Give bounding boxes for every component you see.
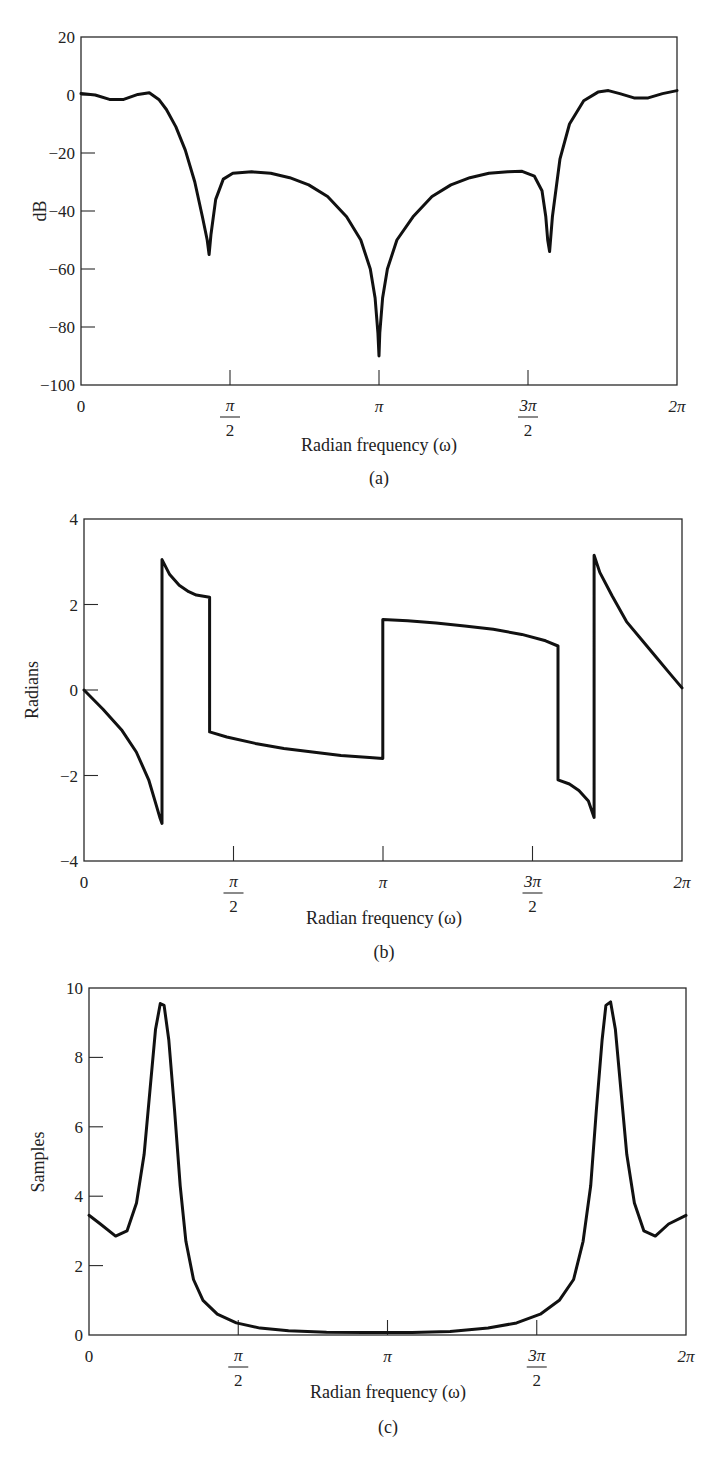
plot-b-ylabel: Radians bbox=[22, 661, 42, 719]
y-tick-label: 4 bbox=[70, 510, 79, 529]
y-tick-label: −2 bbox=[60, 767, 78, 786]
magnitude-curve bbox=[81, 91, 677, 356]
y-tick-label: −60 bbox=[48, 260, 75, 279]
x-tick-label-den: 2 bbox=[533, 1371, 542, 1390]
y-tick-label: −80 bbox=[48, 318, 75, 337]
y-tick-label: −40 bbox=[48, 202, 75, 221]
x-tick-label-num: 3π bbox=[518, 396, 537, 415]
group-delay-curve bbox=[89, 1002, 686, 1333]
x-tick-label: π bbox=[379, 873, 388, 892]
x-tick-label-num: 3π bbox=[523, 872, 542, 891]
x-tick-label-num: π bbox=[234, 1346, 243, 1365]
plot-a-ylabel: dB bbox=[30, 200, 50, 221]
group-delay-plot: 10864200π2π3π22π Samples Radian frequenc… bbox=[28, 979, 695, 1438]
x-tick-label-num: 3π bbox=[527, 1346, 546, 1365]
x-tick-label: 0 bbox=[80, 873, 89, 892]
y-tick-label: 8 bbox=[75, 1048, 84, 1067]
x-tick-label-den: 2 bbox=[229, 897, 238, 916]
x-tick-label: 0 bbox=[77, 397, 86, 416]
y-tick-label: 20 bbox=[58, 28, 75, 47]
x-tick-label: 2π bbox=[673, 873, 691, 892]
x-tick-label-den: 2 bbox=[226, 421, 235, 440]
y-tick-label: −20 bbox=[48, 144, 75, 163]
phase-curve bbox=[84, 555, 682, 823]
phase-plot: 420−2−40π2π3π22π Radians Radian frequenc… bbox=[22, 510, 691, 963]
x-tick-label-den: 2 bbox=[528, 897, 537, 916]
x-tick-label: π bbox=[383, 1347, 392, 1366]
y-tick-label: 0 bbox=[70, 681, 79, 700]
x-tick-label: 2π bbox=[668, 397, 686, 416]
y-tick-label: 2 bbox=[70, 596, 79, 615]
magnitude-plot: 200−20−40−60−80−1000π2π3π22π dB Radian f… bbox=[30, 28, 686, 489]
y-tick-label: 0 bbox=[67, 86, 76, 105]
y-tick-label: 10 bbox=[66, 979, 83, 998]
y-tick-label: 6 bbox=[75, 1118, 84, 1137]
x-tick-label-den: 2 bbox=[234, 1371, 243, 1390]
plot-c-xlabel: Radian frequency (ω) bbox=[310, 1382, 466, 1403]
y-tick-label: −4 bbox=[60, 852, 79, 871]
y-tick-label: 2 bbox=[75, 1257, 84, 1276]
x-tick-label-den: 2 bbox=[524, 421, 533, 440]
x-tick-label: 0 bbox=[85, 1347, 94, 1366]
y-tick-label: 0 bbox=[75, 1326, 84, 1345]
plot-b-xlabel: Radian frequency (ω) bbox=[306, 908, 462, 929]
plot-a-ticks: 200−20−40−60−80−1000π2π3π22π bbox=[40, 28, 686, 440]
plot-b-panel-label: (b) bbox=[374, 942, 395, 963]
x-tick-label-num: π bbox=[226, 396, 235, 415]
x-tick-label: π bbox=[375, 397, 384, 416]
y-tick-label: −100 bbox=[40, 376, 75, 395]
x-tick-label: 2π bbox=[677, 1347, 695, 1366]
plot-b-ticks: 420−2−40π2π3π22π bbox=[60, 510, 691, 916]
plot-c-panel-label: (c) bbox=[378, 1417, 398, 1438]
y-tick-label: 4 bbox=[75, 1187, 84, 1206]
plot-c-ylabel: Samples bbox=[28, 1132, 48, 1193]
plot-a-xlabel: Radian frequency (ω) bbox=[301, 435, 457, 456]
figure-canvas: 200−20−40−60−80−1000π2π3π22π dB Radian f… bbox=[0, 0, 728, 1467]
x-tick-label-num: π bbox=[229, 872, 238, 891]
plot-a-panel-label: (a) bbox=[369, 468, 389, 489]
